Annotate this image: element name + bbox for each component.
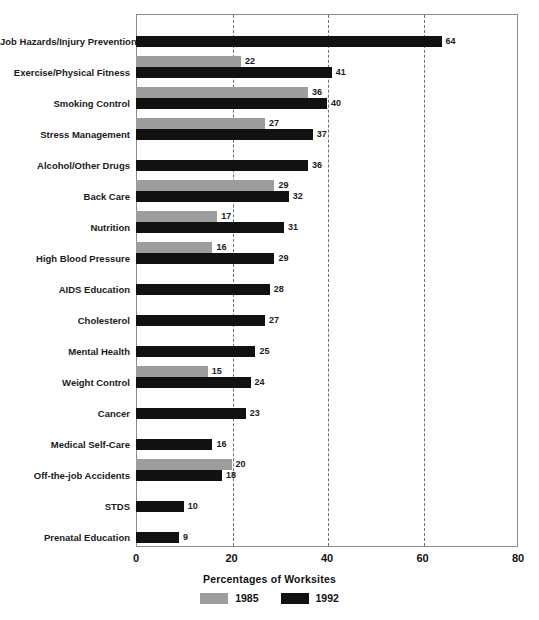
bar-value-1985: 15 [212,366,222,377]
legend-label-1992: 1992 [316,592,339,604]
category-label: Mental Health [0,346,130,357]
bar-1992 [136,253,274,264]
bar-group: 25 [136,335,518,357]
category-label: Nutrition [0,222,130,233]
bar-value-1992: 16 [216,439,226,450]
bar-1985 [136,366,208,377]
bar-group: 3640 [136,87,518,109]
bar-value-1992: 18 [226,470,236,481]
category-label: Back Care [0,191,130,202]
category-label: Medical Self-Care [0,439,130,450]
bar-1992 [136,346,255,357]
xtick-60: 60 [416,552,428,564]
bar-value-1992: 31 [288,222,298,233]
legend-label-1985: 1985 [235,592,258,604]
bar-value-1992: 23 [250,408,260,419]
bar-group: 2932 [136,180,518,202]
bar-1985 [136,180,274,191]
category-label: Job Hazards/Injury Prevention [0,36,130,47]
bar-value-1985: 17 [221,211,231,222]
bar-group: 2737 [136,118,518,140]
bar-group: 36 [136,149,518,171]
bar-1992 [136,315,265,326]
category-label: AIDS Education [0,284,130,295]
bar-value-1992: 64 [446,36,456,47]
x-axis-title: Percentages of Worksites [0,573,539,585]
category-label: Alcohol/Other Drugs [0,160,130,171]
bar-group: 1731 [136,211,518,233]
bar-value-1992: 40 [331,98,341,109]
xtick-80: 80 [512,552,524,564]
bar-value-1992: 10 [188,501,198,512]
bar-1992 [136,532,179,543]
bar-1992 [136,408,246,419]
xtick-0: 0 [133,552,139,564]
bar-1985 [136,459,232,470]
bar-group: 1524 [136,366,518,388]
bar-value-1992: 32 [293,191,303,202]
bar-value-1992: 36 [312,160,322,171]
category-axis: Job Hazards/Injury Prevention Exercise/P… [0,14,130,547]
bar-value-1985: 29 [278,180,288,191]
category-label: Stress Management [0,129,130,140]
bar-1992 [136,36,442,47]
category-label: Cancer [0,408,130,419]
bar-1992 [136,377,251,388]
bar-1992 [136,191,289,202]
bar-1992 [136,67,332,78]
legend-item-1992: 1992 [281,592,339,604]
bar-value-1985: 16 [216,242,226,253]
bar-value-1992: 28 [274,284,284,295]
bar-group: 27 [136,304,518,326]
category-label: STDS [0,501,130,512]
category-label: Off-the-job Accidents [0,470,130,481]
bar-1992 [136,98,327,109]
bar-1992 [136,129,313,140]
bar-group: 9 [136,521,518,543]
bar-group: 2241 [136,56,518,78]
xtick-20: 20 [225,552,237,564]
bar-1992 [136,470,222,481]
bar-1992 [136,501,184,512]
bar-1985 [136,118,265,129]
bar-value-1985: 22 [245,56,255,67]
bar-1992 [136,439,212,450]
bar-1985 [136,211,217,222]
bar-1985 [136,56,241,67]
bar-value-1985: 36 [312,87,322,98]
category-label: Prenatal Education [0,532,130,543]
bar-value-1992: 37 [317,129,327,140]
bar-value-1985: 20 [236,459,246,470]
bar-group: 2018 [136,459,518,481]
bar-value-1992: 9 [183,532,188,543]
bar-chart: Job Hazards/Injury Prevention Exercise/P… [0,0,539,620]
bar-1992 [136,222,284,233]
chart-legend: 1985 1992 [0,592,539,604]
bar-value-1992: 41 [336,67,346,78]
category-label: Cholesterol [0,315,130,326]
bar-1985 [136,87,308,98]
bar-value-1992: 24 [255,377,265,388]
bar-1992 [136,160,308,171]
bar-value-1992: 29 [278,253,288,264]
bar-group: 16 [136,428,518,450]
bar-1985 [136,242,212,253]
legend-swatch-1992 [281,593,309,604]
category-label: Weight Control [0,377,130,388]
bar-1992 [136,284,270,295]
category-label: Exercise/Physical Fitness [0,67,130,78]
legend-swatch-1985 [200,593,228,604]
legend-item-1985: 1985 [200,592,258,604]
bar-value-1985: 27 [269,118,279,129]
category-label: High Blood Pressure [0,253,130,264]
bar-value-1992: 27 [269,315,279,326]
bar-group: 28 [136,273,518,295]
xtick-40: 40 [321,552,333,564]
bar-group: 1629 [136,242,518,264]
bar-group: 64 [136,25,518,47]
bars-layer: 6422413640273736293217311629282725152423… [136,14,518,547]
bar-group: 23 [136,397,518,419]
bar-value-1992: 25 [259,346,269,357]
category-label: Smoking Control [0,98,130,109]
bar-group: 10 [136,490,518,512]
